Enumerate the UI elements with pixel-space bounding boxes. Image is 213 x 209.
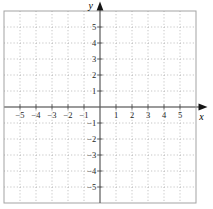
y-axis-label: y bbox=[88, 0, 94, 11]
y-tick-label: 2 bbox=[92, 70, 96, 80]
x-axis-arrowhead bbox=[199, 104, 208, 111]
x-tick-label: 1 bbox=[114, 110, 118, 120]
y-axis-arrowhead bbox=[97, 2, 104, 11]
y-tick-label: −2 bbox=[87, 134, 96, 144]
y-tick-label: −1 bbox=[87, 118, 96, 128]
x-tick-label: 2 bbox=[130, 110, 134, 120]
y-tick-label: 1 bbox=[92, 86, 96, 96]
x-tick-label: −5 bbox=[15, 110, 24, 120]
x-tick-label: −3 bbox=[47, 110, 56, 120]
x-tick-label: 5 bbox=[178, 110, 182, 120]
x-axis-label: x bbox=[198, 111, 204, 122]
coordinate-grid: −5−4−3−2−112345−5−4−3−2−112345 y x bbox=[0, 0, 213, 209]
x-tick-label: 3 bbox=[146, 110, 150, 120]
y-tick-label: −4 bbox=[87, 166, 97, 176]
y-tick-label: 4 bbox=[92, 38, 97, 48]
x-tick-label: −4 bbox=[31, 110, 41, 120]
y-tick-label: −3 bbox=[87, 150, 96, 160]
cartesian-plane-svg: −5−4−3−2−112345−5−4−3−2−112345 y x bbox=[0, 0, 213, 209]
y-tick-label: 5 bbox=[92, 22, 96, 32]
y-tick-label: 3 bbox=[92, 54, 96, 64]
y-tick-label: −5 bbox=[87, 182, 96, 192]
x-tick-label: −2 bbox=[63, 110, 72, 120]
